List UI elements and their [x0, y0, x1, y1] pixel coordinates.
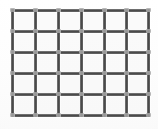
weld-joint	[10, 29, 15, 33]
mesh-cell	[14, 33, 34, 51]
weld-joint	[146, 50, 151, 54]
weld-joint	[124, 8, 129, 12]
weld-joint	[33, 113, 38, 117]
mesh-cell	[37, 96, 57, 114]
weld-joint	[79, 113, 84, 117]
mesh-cell	[83, 96, 103, 114]
weld-joint	[10, 50, 15, 54]
weld-joint	[10, 71, 15, 75]
mesh-cell	[128, 12, 147, 30]
weld-joint	[102, 113, 107, 117]
mesh-cell	[106, 12, 125, 30]
weld-joint	[102, 92, 107, 96]
weld-joint	[56, 113, 61, 117]
weld-joint	[124, 29, 129, 33]
wire-mesh-image	[0, 0, 158, 129]
weld-joint	[33, 8, 38, 12]
vertical-wire	[147, 9, 150, 117]
vertical-wire	[103, 9, 106, 117]
weld-joint	[56, 8, 61, 12]
weld-joint	[33, 50, 38, 54]
mesh-cell	[14, 12, 34, 30]
weld-joint	[10, 92, 15, 96]
mesh-cell	[83, 33, 103, 51]
weld-joint	[56, 29, 61, 33]
weld-joint	[124, 71, 129, 75]
mesh-cell	[60, 33, 80, 51]
mesh-cell	[37, 12, 57, 30]
mesh-cell	[128, 96, 147, 114]
wire-mesh-panel	[0, 0, 158, 129]
mesh-cell	[14, 96, 34, 114]
weld-joint	[124, 50, 129, 54]
weld-joint	[79, 50, 84, 54]
weld-joint	[102, 8, 107, 12]
weld-joint	[10, 8, 15, 12]
mesh-cell	[128, 33, 147, 51]
weld-joint	[79, 71, 84, 75]
weld-joint	[79, 29, 84, 33]
weld-joint	[146, 29, 151, 33]
weld-joint	[102, 50, 107, 54]
mesh-cell	[37, 75, 57, 93]
mesh-cell	[106, 75, 125, 93]
mesh-cell	[14, 75, 34, 93]
vertical-wire	[34, 9, 37, 117]
vertical-wire	[125, 9, 128, 117]
mesh-cell	[60, 96, 80, 114]
weld-joint	[124, 92, 129, 96]
mesh-cell	[37, 54, 57, 72]
weld-joint	[56, 50, 61, 54]
weld-joint	[79, 8, 84, 12]
vertical-wire	[57, 9, 60, 117]
mesh-cell	[60, 54, 80, 72]
weld-joint	[102, 29, 107, 33]
mesh-cell	[83, 75, 103, 93]
weld-joint	[146, 113, 151, 117]
mesh-cell	[37, 33, 57, 51]
weld-joint	[146, 8, 151, 12]
mesh-cell	[60, 75, 80, 93]
mesh-cell	[83, 54, 103, 72]
weld-joint	[124, 113, 129, 117]
mesh-cell	[14, 54, 34, 72]
mesh-cell	[106, 54, 125, 72]
vertical-wire	[11, 9, 14, 117]
weld-joint	[56, 92, 61, 96]
mesh-cell	[128, 54, 147, 72]
weld-joint	[10, 113, 15, 117]
mesh-cell	[106, 96, 125, 114]
weld-joint	[56, 71, 61, 75]
weld-joint	[33, 29, 38, 33]
vertical-wire	[80, 9, 83, 117]
mesh-cell	[106, 33, 125, 51]
weld-joint	[146, 71, 151, 75]
weld-joint	[79, 92, 84, 96]
weld-joint	[146, 92, 151, 96]
weld-joint	[33, 92, 38, 96]
weld-joint	[33, 71, 38, 75]
mesh-cell	[83, 12, 103, 30]
mesh-cell	[60, 12, 80, 30]
mesh-cell	[128, 75, 147, 93]
weld-joint	[102, 71, 107, 75]
